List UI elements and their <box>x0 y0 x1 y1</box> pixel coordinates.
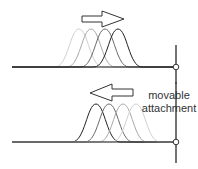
right-arrow-icon <box>82 11 124 27</box>
left-arrow-icon <box>90 84 133 101</box>
gaussian-curve-4 <box>12 29 175 67</box>
attachment-point-icon <box>173 64 179 70</box>
gaussian-curve-2 <box>12 29 175 67</box>
gaussian-curve-3 <box>12 29 175 67</box>
label-line-2: attachment <box>140 102 198 115</box>
attachment-point-icon <box>173 139 179 145</box>
diagram-canvas <box>0 0 198 169</box>
movable-attachment-label: movable attachment <box>140 89 198 115</box>
label-line-1: movable <box>140 89 198 102</box>
top-panel <box>12 11 179 84</box>
gaussian-curve-1 <box>12 29 175 67</box>
